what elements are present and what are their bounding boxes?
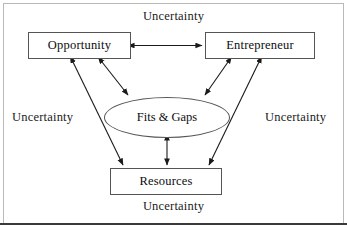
node-entrepreneur-label: Entrepreneur [226, 38, 294, 53]
node-entrepreneur[interactable]: Entrepreneur [205, 32, 315, 59]
node-fits-gaps[interactable]: Fits & Gaps [104, 97, 230, 138]
label-uncertainty-top: Uncertainty [0, 9, 347, 24]
label-uncertainty-left: Uncertainty [12, 110, 73, 125]
node-opportunity-label: Opportunity [48, 38, 111, 53]
node-fits-gaps-label: Fits & Gaps [137, 110, 197, 125]
diagram-canvas: Opportunity Entrepreneur Fits & Gaps Res… [0, 0, 347, 235]
node-resources[interactable]: Resources [110, 168, 222, 195]
node-resources-label: Resources [139, 174, 192, 189]
connector-opportunity-fitsgaps [102, 62, 128, 95]
label-uncertainty-right: Uncertainty [265, 110, 326, 125]
connector-entrepreneur-fitsgaps [205, 62, 228, 95]
node-opportunity[interactable]: Opportunity [28, 32, 131, 59]
label-uncertainty-bottom: Uncertainty [0, 199, 347, 214]
